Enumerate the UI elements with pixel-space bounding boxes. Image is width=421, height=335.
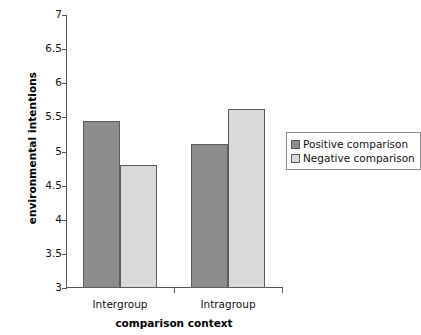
legend-item: Negative comparison (291, 151, 415, 165)
bar-intergroup-negative (120, 165, 157, 288)
legend-item: Positive comparison (291, 137, 415, 151)
x-axis-title: comparison context (66, 317, 282, 329)
bar-intergroup-positive (83, 121, 120, 288)
y-axis-tick-label: 3.5 (28, 248, 62, 259)
legend-swatch-negative (291, 154, 300, 163)
y-axis-line (66, 15, 67, 289)
legend: Positive comparison Negative comparison (286, 132, 421, 170)
y-axis-tick-mark (62, 49, 66, 50)
y-axis-tick-mark (62, 15, 66, 16)
y-axis-tick-mark (62, 186, 66, 187)
y-axis-tick-label: 6 (28, 77, 62, 88)
x-axis-tick-mark (174, 288, 175, 293)
y-axis-tick-mark (62, 152, 66, 153)
y-axis-tick-mark (62, 254, 66, 255)
legend-swatch-positive (291, 140, 300, 149)
y-axis-tick-label: 7 (28, 9, 62, 20)
y-axis-tick-label: 5 (28, 146, 62, 157)
y-axis-tick-label: 4.5 (28, 180, 62, 191)
y-axis-tick-mark (62, 220, 66, 221)
legend-label-negative: Negative comparison (303, 153, 415, 164)
y-axis-tick-label: 3 (28, 282, 62, 293)
x-axis-category-label: Intergroup (60, 298, 180, 310)
y-axis-tick-labels: 33.544.555.566.57 (24, 0, 62, 335)
bar-intragroup-negative (228, 109, 265, 288)
bar-intragroup-positive (191, 144, 228, 288)
x-axis-tick-mark (282, 288, 283, 293)
x-axis-category-label: Intragroup (168, 298, 288, 310)
y-axis-tick-mark (62, 288, 66, 289)
y-axis-tick-mark (62, 83, 66, 84)
legend-label-positive: Positive comparison (303, 139, 408, 150)
y-axis-tick-label: 4 (28, 214, 62, 225)
y-axis-tick-label: 6.5 (28, 43, 62, 54)
plot-area (66, 15, 282, 288)
y-axis-tick-label: 5.5 (28, 111, 62, 122)
y-axis-tick-mark (62, 117, 66, 118)
